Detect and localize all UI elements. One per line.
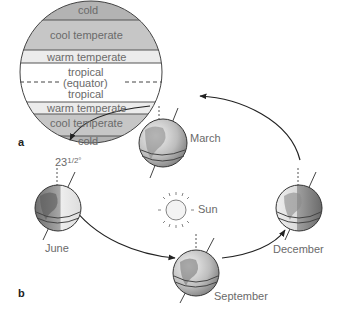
band-label-tropical-south: tropical [68,88,103,100]
seasons-diagram [0,0,343,315]
sun-icon [158,192,194,228]
band-label-cool-temperate-south: cool temperate [50,117,123,129]
band-label-cool-temperate-north: cool temperate [50,29,123,41]
band-label-cold-north: cold [78,4,98,16]
tilt-angle-label: 231/2° [55,156,82,168]
sun-label: Sun [198,203,218,215]
panel-label-a: a [18,136,24,148]
month-label-december: December [273,243,324,255]
earth-december [276,168,322,240]
band-label-warm-temperate-north: warm temperate [47,51,126,63]
band-label-cold-south: cold [78,135,98,147]
month-label-june: June [45,242,69,254]
tilt-angle-fraction: 1/2° [67,156,81,165]
panel-label-b: b [18,287,25,299]
month-label-march: March [190,132,221,144]
band-label-warm-temperate-south: warm temperate [47,102,126,114]
month-label-september: September [214,290,268,302]
earth-june [35,168,81,240]
tilt-angle-value: 23 [55,156,67,168]
earth-september [173,234,219,303]
